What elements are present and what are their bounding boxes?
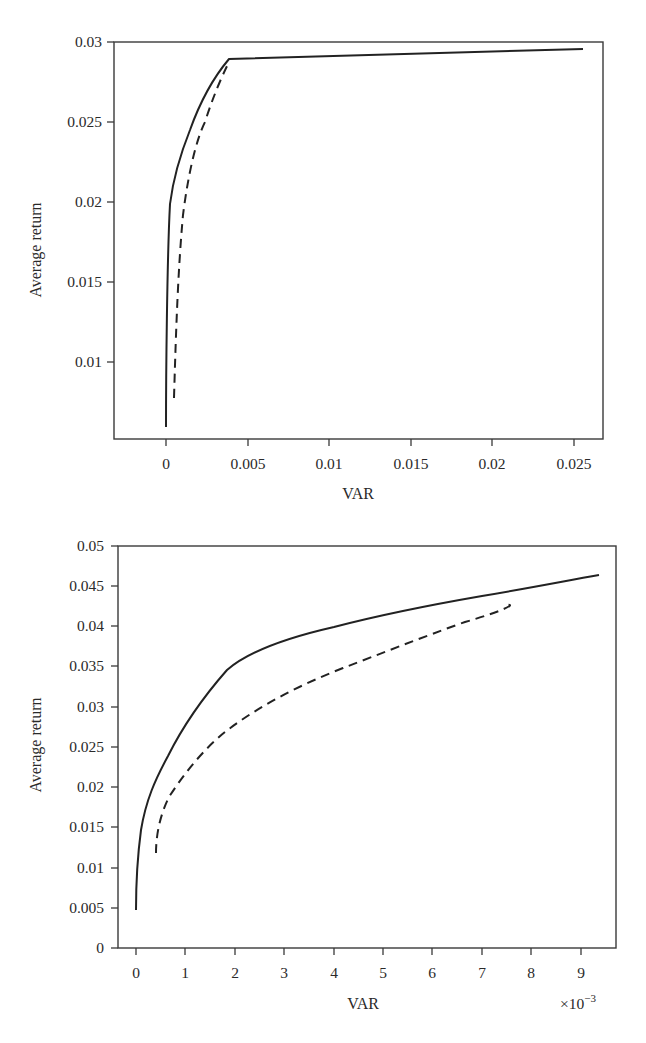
bottom-x-ticks: 0 1 2 3 4 5 6 7 8 9 [132,948,585,981]
bottom-y-ticks: 0 0.005 0.01 0.015 0.02 0.025 0.03 0.035… [69,537,118,956]
bottom-x-tick-label: 5 [379,964,387,981]
top-y-axis-label: Average return [27,202,45,297]
bottom-y-tick-label: 0.015 [69,818,104,835]
bottom-y-tick-label: 0.005 [69,899,104,916]
top-y-tick-label: 0.015 [67,273,102,290]
top-y-tick-label: 0.03 [75,33,102,50]
bottom-x-tick-label: 1 [181,964,189,981]
bottom-x-multiplier: ×10−3 [560,992,596,1012]
bottom-y-tick-label: 0.02 [77,778,104,795]
bottom-y-tick-label: 0.035 [69,657,104,674]
top-x-tick-label: 0.005 [231,455,266,472]
bottom-y-tick-label: 0.045 [69,577,104,594]
bottom-x-axis-label: VAR [347,995,379,1012]
bottom-x-tick-label: 3 [280,964,288,981]
bottom-x-tick-label: 9 [577,964,585,981]
top-x-axis-label: VAR [342,485,374,502]
bottom-y-tick-label: 0.025 [69,738,104,755]
top-x-tick-label: 0.01 [315,455,342,472]
top-y-tick-label: 0.02 [75,193,102,210]
bottom-x-tick-label: 8 [527,964,535,981]
top-x-tick-label: 0.025 [557,455,592,472]
bottom-dashed-series [156,605,510,853]
bottom-x-tick-label: 4 [330,964,338,981]
bottom-solid-series [136,575,599,910]
top-y-tick-label: 0.01 [75,353,102,370]
top-x-tick-label: 0.015 [394,455,429,472]
bottom-y-tick-label: 0.03 [77,698,104,715]
top-x-tick-label: 0.02 [478,455,505,472]
bottom-x-tick-label: 0 [132,964,140,981]
top-y-ticks: 0.01 0.015 0.02 0.025 0.03 [67,33,114,370]
bottom-y-axis-label: Average return [27,697,45,792]
top-plot-frame [114,42,603,439]
top-x-ticks: 0 0.005 0.01 0.015 0.02 0.025 [162,439,592,472]
top-x-tick-label: 0 [162,455,170,472]
bottom-x-tick-label: 6 [428,964,436,981]
figure: 0.01 0.015 0.02 0.025 0.03 0 0.005 0.01 … [0,0,646,1043]
bottom-x-tick-label: 2 [231,964,239,981]
bottom-x-tick-label: 7 [478,964,486,981]
bottom-y-tick-label: 0.01 [77,859,104,876]
bottom-chart: 0 0.005 0.01 0.015 0.02 0.025 0.03 0.035… [27,537,616,1012]
bottom-y-tick-label: 0.05 [77,537,104,554]
top-chart: 0.01 0.015 0.02 0.025 0.03 0 0.005 0.01 … [27,33,603,502]
bottom-plot-frame [118,546,616,948]
top-dashed-series [174,62,229,398]
bottom-y-tick-label: 0.04 [77,617,104,634]
bottom-y-tick-label: 0 [96,939,104,956]
top-solid-series [166,49,583,427]
top-y-tick-label: 0.025 [67,113,102,130]
